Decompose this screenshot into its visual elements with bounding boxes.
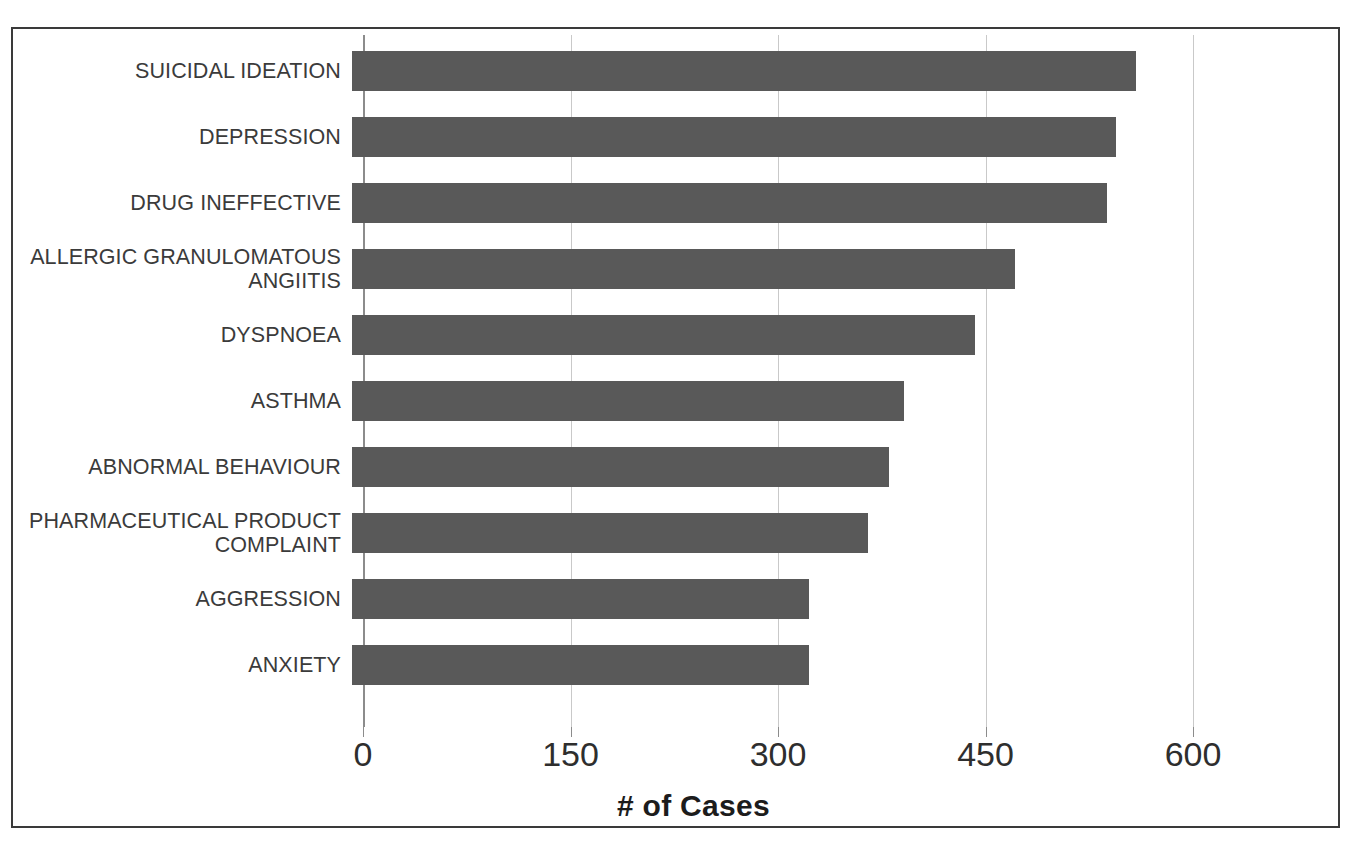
bar[interactable]	[352, 183, 1107, 223]
category-label: PHARMACEUTICAL PRODUCT COMPLAINT	[13, 509, 352, 557]
category-label: SUICIDAL IDEATION	[13, 59, 352, 83]
bar[interactable]	[352, 51, 1136, 91]
category-label: ABNORMAL BEHAVIOUR	[13, 455, 352, 479]
bar[interactable]	[352, 381, 904, 421]
plot-area: SUICIDAL IDEATIONDEPRESSIONDRUG INEFFECT…	[13, 29, 1338, 826]
category-label: ASTHMA	[13, 389, 352, 413]
x-tick-label: 300	[750, 735, 807, 774]
bar-row: SUICIDAL IDEATION	[13, 38, 1338, 104]
bar-track	[352, 104, 1338, 170]
bar-track	[352, 368, 1338, 434]
bar[interactable]	[352, 579, 809, 619]
bar-track	[352, 170, 1338, 236]
category-label: DEPRESSION	[13, 125, 352, 149]
bar[interactable]	[352, 645, 809, 685]
x-axis-title: # of Cases	[13, 789, 1338, 823]
bar[interactable]	[352, 513, 868, 553]
bar-row: ABNORMAL BEHAVIOUR	[13, 434, 1338, 500]
bar-track	[352, 632, 1338, 698]
x-tick-label: 0	[354, 735, 373, 774]
category-label: AGGRESSION	[13, 587, 352, 611]
bar-row: DRUG INEFFECTIVE	[13, 170, 1338, 236]
x-tick-label: 150	[542, 735, 599, 774]
bar-row: ASTHMA	[13, 368, 1338, 434]
bar-row: DEPRESSION	[13, 104, 1338, 170]
category-label: DYSPNOEA	[13, 323, 352, 347]
bar-row: ALLERGIC GRANULOMATOUS ANGIITIS	[13, 236, 1338, 302]
bar-row: AGGRESSION	[13, 566, 1338, 632]
bar-track	[352, 500, 1338, 566]
bar-chart-figure: SUICIDAL IDEATIONDEPRESSIONDRUG INEFFECT…	[11, 27, 1340, 828]
bar-track	[352, 566, 1338, 632]
x-tick-label: 600	[1165, 735, 1222, 774]
category-label: DRUG INEFFECTIVE	[13, 191, 352, 215]
x-tick-label: 450	[957, 735, 1014, 774]
bar[interactable]	[352, 315, 975, 355]
bar-track	[352, 302, 1338, 368]
bar[interactable]	[352, 447, 889, 487]
bar-track	[352, 38, 1338, 104]
category-label: ANXIETY	[13, 653, 352, 677]
bar-row: PHARMACEUTICAL PRODUCT COMPLAINT	[13, 500, 1338, 566]
bar[interactable]	[352, 117, 1116, 157]
bar-track	[352, 236, 1338, 302]
bar[interactable]	[352, 249, 1015, 289]
bar-track	[352, 434, 1338, 500]
x-axis-title-label: # of Cases	[617, 789, 770, 823]
category-label: ALLERGIC GRANULOMATOUS ANGIITIS	[13, 245, 352, 293]
bar-row: DYSPNOEA	[13, 302, 1338, 368]
bar-row: ANXIETY	[13, 632, 1338, 698]
